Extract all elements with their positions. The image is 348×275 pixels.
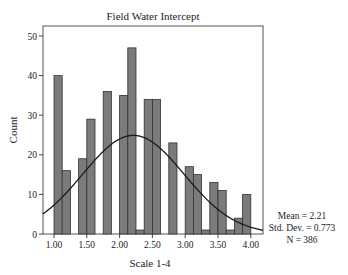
stats-std-dev: Std. Dev. = 0.773 [269,223,336,233]
x-tick-label: 1.50 [78,240,95,250]
x-axis-label: Scale 1-4 [129,257,171,269]
histogram-bar [87,119,95,234]
histogram-bar [193,175,201,234]
y-tick-label: 0 [32,230,37,240]
histogram-bar [120,95,128,234]
x-tick-label: 2.50 [144,240,161,250]
y-tick-label: 10 [28,190,38,200]
x-tick-label: 3.00 [177,240,194,250]
histogram-bar [243,194,251,234]
histogram-bar [54,76,62,234]
y-axis-label: Count [7,117,19,144]
histogram-bar [202,230,210,234]
x-tick-label: 3.50 [210,240,227,250]
histogram-bar [128,48,136,234]
histogram-bar [103,91,111,234]
y-tick-label: 30 [28,111,38,121]
histogram-bar [226,230,234,234]
histogram-bar [152,99,160,234]
stats-mean: Mean = 2.21 [278,211,327,221]
x-tick-label: 1.00 [46,240,63,250]
y-tick-label: 50 [28,32,38,42]
histogram-bar [144,99,152,234]
stats-n: N = 386 [286,235,317,245]
histogram-bar [169,143,177,234]
x-axis: 1.001.502.002.503.003.504.00 [46,234,260,250]
y-tick-label: 20 [28,150,38,160]
stats-box: Mean = 2.21 Std. Dev. = 0.773 N = 386 [269,211,336,245]
histogram-bar [62,171,70,234]
y-axis: 01020304050 [28,32,44,240]
histogram-chart: Field Water Intercept 01020304050 1.001.… [0,0,348,275]
y-tick-label: 40 [28,71,38,81]
chart-title: Field Water Intercept [107,10,200,22]
histogram-bar [136,230,144,234]
x-tick-label: 2.00 [111,240,128,250]
x-tick-label: 4.00 [242,240,259,250]
